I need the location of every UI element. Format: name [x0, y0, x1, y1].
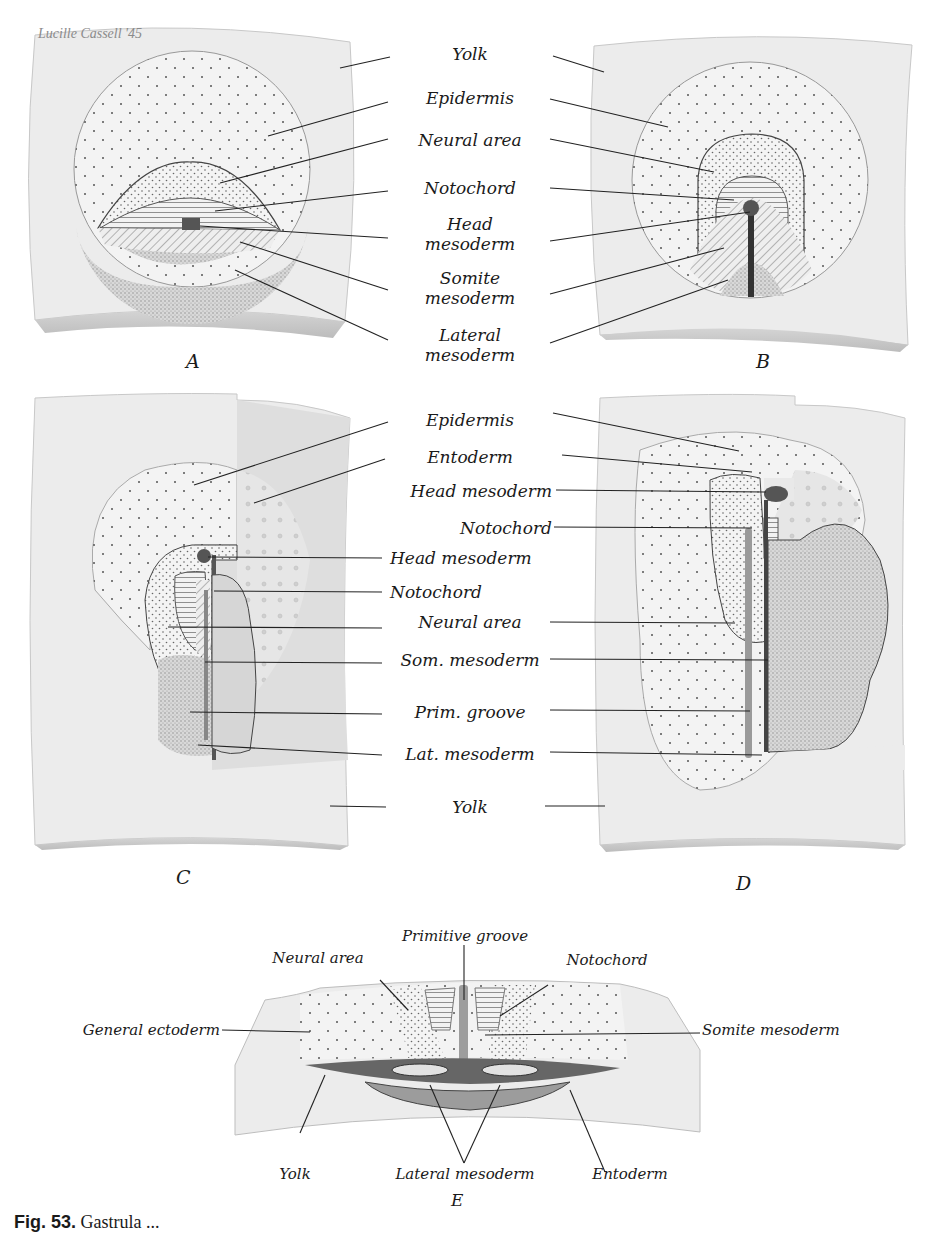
label-neural-area: Neural area [400, 130, 540, 150]
label-text: Lateral [400, 325, 540, 345]
label-primitive-groove: Primitive groove [380, 926, 550, 946]
label-text: Neural area [418, 130, 521, 150]
label-prim-groove: Prim. groove [390, 702, 550, 722]
label-somite-mesoderm: Somite mesoderm [702, 1020, 882, 1040]
label-head-mesoderm-c: Head mesoderm [390, 548, 562, 568]
label-notochord-d: Notochord [380, 518, 552, 538]
label-notochord: Notochord [552, 950, 662, 970]
panel-a-drawing [29, 28, 391, 340]
panel-b-drawing [550, 37, 912, 352]
label-neural-area: Neural area [258, 948, 378, 968]
label-yolk: Yolk [265, 1164, 325, 1184]
label-epidermis: Epidermis [400, 88, 540, 108]
label-neural-area: Neural area [390, 612, 550, 632]
label-text: mesoderm [400, 234, 540, 254]
panel-c-drawing [30, 394, 388, 851]
label-notochord-c: Notochord [390, 582, 562, 602]
figure-caption: Fig. 53. Gastrula ... [14, 1212, 160, 1233]
label-general-ectoderm: General ectoderm [40, 1020, 220, 1040]
label-lat-mesoderm: Lat. mesoderm [390, 744, 550, 764]
label-head-mesoderm-d: Head mesoderm [380, 481, 552, 501]
label-text: Yolk [452, 44, 488, 64]
label-head-mesoderm: Headmesoderm [400, 214, 540, 254]
artist-signature: Lucille Cassell '45 [38, 26, 142, 42]
label-somite-mesoderm: Somitemesoderm [400, 268, 540, 308]
label-epidermis: Epidermis [390, 410, 550, 430]
label-notochord: Notochord [400, 178, 540, 198]
panel-letter-e: E [451, 1190, 463, 1210]
panel-letter-d: D [736, 872, 751, 894]
label-text: Epidermis [426, 88, 514, 108]
panel-d-drawing [545, 394, 905, 852]
panel-letter-b: B [756, 350, 770, 372]
caption-text: Gastrula ... [81, 1212, 160, 1232]
label-text: Notochord [424, 178, 516, 198]
label-lateral-mesoderm: Lateral mesoderm [375, 1164, 555, 1184]
label-text: mesoderm [400, 345, 540, 365]
panel-e-drawing [222, 945, 700, 1172]
panel-letter-c: C [176, 866, 191, 888]
panel-letter-a: A [186, 350, 200, 372]
label-entoderm: Entoderm [390, 447, 550, 467]
label-yolk: Yolk [390, 797, 550, 817]
label-som-mesoderm: Som. mesoderm [390, 650, 550, 670]
label-text: Head [400, 214, 540, 234]
label-yolk: Yolk [400, 44, 540, 64]
label-entoderm: Entoderm [580, 1164, 680, 1184]
label-text: mesoderm [400, 288, 540, 308]
label-text: Somite [400, 268, 540, 288]
label-lateral-mesoderm: Lateralmesoderm [400, 325, 540, 365]
figure-number: Fig. 53. [14, 1212, 76, 1232]
